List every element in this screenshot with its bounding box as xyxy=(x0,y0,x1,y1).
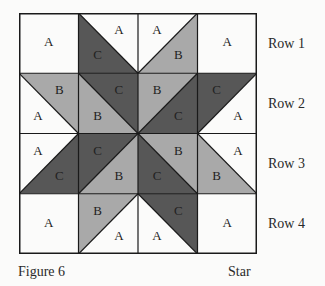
pattern-name: Star xyxy=(228,264,251,280)
patch-label-1-2-lower: C xyxy=(174,108,183,123)
quilt-block-diagram: AACABABACBBCCAACCBBCABABACAA xyxy=(19,13,257,254)
patch-label-2-2-lower: C xyxy=(153,168,162,183)
patch-label-0-2-upper: A xyxy=(152,22,162,37)
patch-label-3-1-upper: B xyxy=(93,203,102,218)
patch-label-2-1-upper: C xyxy=(93,143,102,158)
patch-label-0-1-lower: C xyxy=(93,47,102,62)
patch-label-0-1-upper: A xyxy=(114,22,124,37)
patch-label-3-2-lower: A xyxy=(152,228,162,243)
quilt-grid: AACABABACBBCCAACCBBCABABACAA xyxy=(19,13,257,254)
patch-label-1-0-upper: B xyxy=(55,82,64,97)
patch-label-1-1-lower: B xyxy=(93,108,102,123)
patch-label-2-1-lower: B xyxy=(115,168,124,183)
patch-label-0-0-full: A xyxy=(44,34,54,49)
patch-label-1-1-upper: C xyxy=(115,82,124,97)
patch-label-3-2-upper: C xyxy=(174,203,183,218)
row-label-1: Row 1 xyxy=(268,36,305,52)
patch-label-2-0-upper: A xyxy=(33,143,43,158)
patch-label-2-0-lower: C xyxy=(55,168,64,183)
patch-label-1-3-upper: C xyxy=(212,82,221,97)
figure-number: Figure 6 xyxy=(18,264,65,280)
patch-label-2-3-upper: A xyxy=(233,143,243,158)
patch-label-2-3-lower: B xyxy=(212,168,221,183)
patch-label-2-2-upper: B xyxy=(174,143,183,158)
patch-label-0-2-lower: B xyxy=(174,47,183,62)
patch-label-1-0-lower: A xyxy=(33,108,43,123)
row-label-4: Row 4 xyxy=(268,216,305,232)
patch-label-3-3-full: A xyxy=(223,215,233,230)
patch-label-3-0-full: A xyxy=(44,215,54,230)
row-label-2: Row 2 xyxy=(268,96,305,112)
patch-label-0-3-full: A xyxy=(223,34,233,49)
patch-label-3-1-lower: A xyxy=(114,228,124,243)
row-label-3: Row 3 xyxy=(268,156,305,172)
patch-label-1-3-lower: A xyxy=(233,108,243,123)
patch-label-1-2-upper: B xyxy=(153,82,162,97)
